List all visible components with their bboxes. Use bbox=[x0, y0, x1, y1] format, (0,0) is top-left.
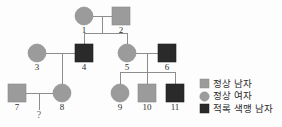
individual-label: 9 bbox=[118, 102, 123, 112]
individual-1[interactable]: 1 bbox=[75, 7, 93, 35]
male-square-normal bbox=[138, 84, 156, 102]
legend-marker-normal-female bbox=[200, 92, 209, 101]
individual-9[interactable]: 9 bbox=[111, 84, 129, 112]
individual-label: 7 bbox=[15, 102, 20, 112]
male-square-affected bbox=[166, 84, 184, 102]
female-circle-normal bbox=[28, 44, 46, 62]
individual-5[interactable]: 5 bbox=[118, 44, 136, 72]
individual-7[interactable]: 7 bbox=[8, 84, 26, 112]
legend-label-normal-female: 정상 여자 bbox=[213, 90, 252, 101]
pedigree-figure: 1 2 3 4 5 6 7 8 bbox=[0, 0, 282, 127]
male-square-normal bbox=[112, 7, 130, 25]
female-circle-normal bbox=[111, 84, 129, 102]
individual-11[interactable]: 11 bbox=[166, 84, 184, 112]
individual-8[interactable]: 8 bbox=[53, 84, 71, 112]
individual-label: 2 bbox=[119, 25, 124, 35]
mating-line-7-8 bbox=[26, 93, 53, 110]
female-circle-normal bbox=[118, 44, 136, 62]
legend: 정상 남자 정상 여자 적록 색맹 남자 bbox=[200, 78, 273, 114]
individual-label: 8 bbox=[60, 102, 65, 112]
individual-2[interactable]: 2 bbox=[112, 7, 130, 35]
pedigree-diagram: 1 2 3 4 5 6 7 8 bbox=[0, 0, 282, 127]
individual-label: 1 bbox=[82, 25, 87, 35]
male-square-affected bbox=[158, 44, 176, 62]
individual-6[interactable]: 6 bbox=[158, 44, 176, 72]
individual-label: 3 bbox=[35, 62, 40, 72]
female-circle-normal bbox=[53, 84, 71, 102]
individual-label: 6 bbox=[165, 62, 170, 72]
unknown-offspring[interactable]: ? bbox=[37, 109, 42, 120]
female-circle-normal bbox=[75, 7, 93, 25]
individual-label: 4 bbox=[82, 62, 87, 72]
legend-label-colorblind-male: 적록 색맹 남자 bbox=[213, 103, 273, 114]
legend-marker-colorblind-male bbox=[200, 104, 209, 113]
individual-4[interactable]: 4 bbox=[75, 44, 93, 72]
mating-line-3-4 bbox=[46, 53, 75, 84]
legend-marker-normal-male bbox=[200, 79, 209, 88]
individual-label: 5 bbox=[125, 62, 130, 72]
male-square-normal bbox=[8, 84, 26, 102]
legend-label-normal-male: 정상 남자 bbox=[213, 78, 252, 89]
question-mark-label: ? bbox=[37, 109, 42, 120]
individual-label: 11 bbox=[171, 102, 180, 112]
individual-3[interactable]: 3 bbox=[28, 44, 46, 72]
individual-10[interactable]: 10 bbox=[138, 84, 156, 112]
male-square-affected bbox=[75, 44, 93, 62]
individual-label: 10 bbox=[143, 102, 153, 112]
